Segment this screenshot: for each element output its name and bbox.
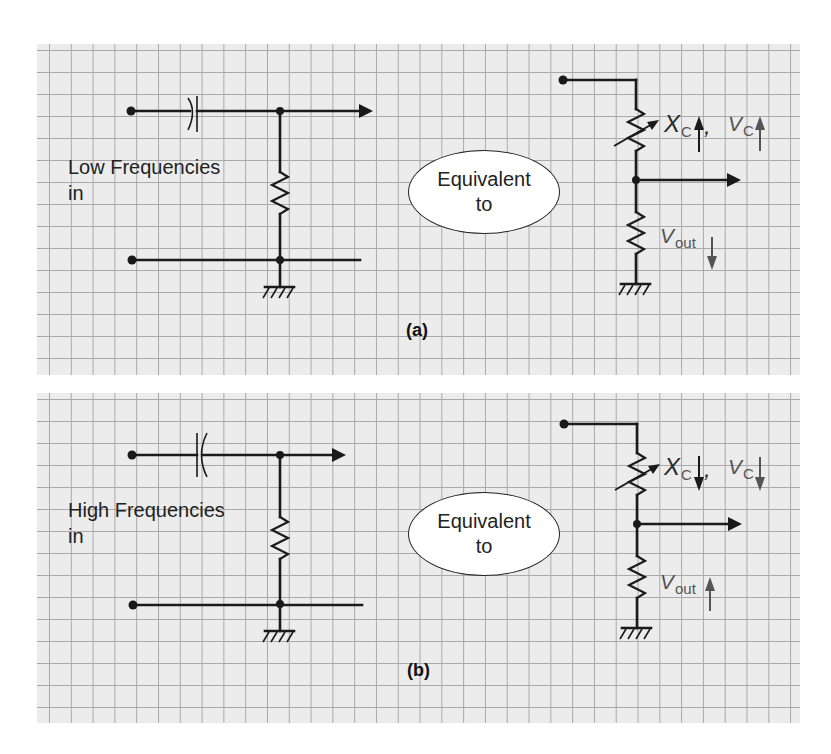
resistor-out-icon — [628, 212, 644, 254]
capacitor-icon — [188, 96, 197, 132]
divider-output-arrow-icon — [727, 173, 741, 187]
equivalent-to-ellipse: Equivalent to — [408, 150, 560, 234]
ground-icon — [619, 284, 650, 295]
vout-increase-arrow-icon — [705, 577, 715, 611]
vc-label: VC — [728, 455, 754, 482]
input-label-line2: in — [68, 181, 84, 206]
panel-a-low-frequency: Low Frequencies in Equivalent to XC , VC… — [37, 44, 800, 375]
equivalent-label-line1: Equivalent — [437, 167, 530, 192]
vout-label: Vout — [660, 224, 696, 251]
vc-decrease-arrow-icon — [755, 457, 765, 491]
xc-label: XC — [664, 453, 692, 483]
vout-label: Vout — [660, 570, 696, 597]
xc-increase-arrow-icon — [694, 116, 704, 151]
ground-icon — [620, 628, 651, 639]
vc-increase-arrow-icon — [755, 116, 765, 151]
divider-output-arrow-icon — [728, 517, 742, 531]
vc-label: VC — [728, 112, 754, 139]
xc-decrease-arrow-icon — [694, 457, 704, 491]
comma-separator: , — [704, 455, 711, 483]
input-label-line1: Low Frequencies — [68, 155, 220, 180]
ground-icon — [263, 287, 294, 298]
panel-b-high-frequency: High Frequencies in Equivalent to XC , V… — [37, 393, 800, 723]
panel-caption-a: (a) — [406, 320, 428, 341]
input-label-line1: High Frequencies — [68, 498, 225, 523]
output-arrow-icon — [332, 448, 346, 462]
equivalent-to-ellipse: Equivalent to — [408, 492, 560, 576]
resistor-out-icon — [629, 556, 645, 598]
equivalent-label-line2: to — [476, 192, 493, 217]
xc-label: XC — [664, 110, 692, 140]
equivalent-label-line2: to — [476, 534, 493, 559]
panel-caption-b: (b) — [407, 660, 430, 681]
ground-icon — [263, 631, 294, 642]
output-arrow-icon — [359, 104, 373, 118]
resistor-icon — [272, 517, 288, 559]
input-label-line2: in — [68, 524, 84, 549]
vout-decrease-arrow-icon — [707, 237, 717, 270]
equivalent-label-line1: Equivalent — [437, 509, 530, 534]
comma-separator: , — [704, 112, 711, 140]
resistor-icon — [272, 172, 288, 214]
